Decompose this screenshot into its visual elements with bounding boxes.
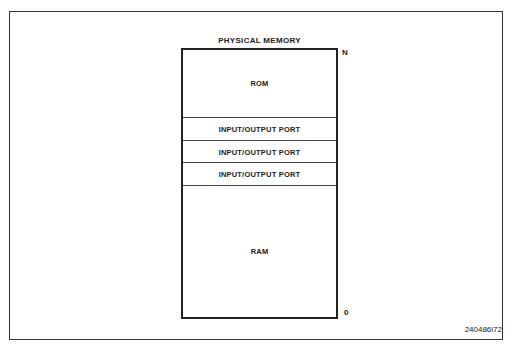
bottom-address-label: 0 bbox=[344, 308, 348, 317]
top-address-label: N bbox=[342, 48, 348, 57]
segment-rom: ROM bbox=[183, 50, 336, 117]
segment-io-port-2: INPUT/OUTPUT PORT bbox=[183, 141, 336, 163]
segment-io-port-3: INPUT/OUTPUT PORT bbox=[183, 163, 336, 185]
diagram-title: PHYSICAL MEMORY bbox=[181, 36, 338, 45]
segment-ram: RAM bbox=[183, 186, 336, 317]
figure-id: 240486i72 bbox=[465, 325, 502, 334]
segment-io-port-1: INPUT/OUTPUT PORT bbox=[183, 118, 336, 140]
physical-memory-map: ROM INPUT/OUTPUT PORT INPUT/OUTPUT PORT … bbox=[181, 48, 338, 319]
